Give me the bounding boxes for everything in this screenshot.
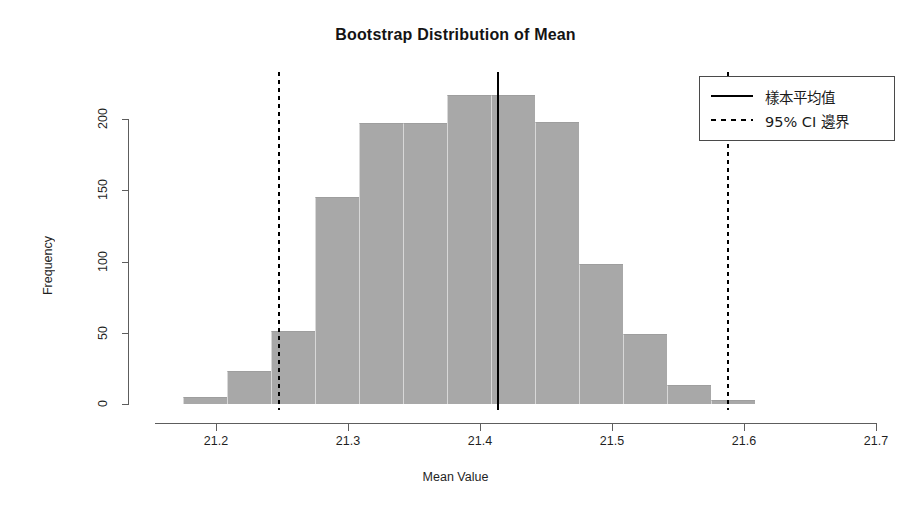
histogram-bar xyxy=(667,385,711,404)
x-axis-title: Mean Value xyxy=(0,470,911,484)
x-axis-line xyxy=(155,423,876,424)
x-axis-tick-label: 21.3 xyxy=(318,434,378,448)
histogram-bar xyxy=(535,122,579,404)
histogram-bar xyxy=(359,123,404,404)
legend-label-mean: 樣本平均值 xyxy=(765,86,835,107)
x-axis-tick-label: 21.2 xyxy=(186,434,246,448)
x-axis-tick xyxy=(216,423,217,431)
histogram-bar xyxy=(579,264,623,404)
chart-figure: Bootstrap Distribution of Mean 050100150… xyxy=(0,0,911,532)
reference-line-sample-mean xyxy=(497,72,499,410)
x-axis-tick-label: 21.7 xyxy=(846,434,906,448)
histogram-bar xyxy=(227,371,272,404)
histogram-bar xyxy=(623,334,668,404)
reference-line-ci-lower xyxy=(278,72,280,410)
legend-item-ci: 95% CI 邊界 xyxy=(709,108,885,132)
legend-solid-line-icon xyxy=(709,90,755,102)
legend-label-ci: 95% CI 邊界 xyxy=(765,110,849,131)
x-axis-tick-label: 21.5 xyxy=(582,434,642,448)
x-axis-tick xyxy=(612,423,613,431)
legend-dashed-line-icon xyxy=(709,114,755,126)
x-axis-tick xyxy=(348,423,349,431)
histogram-bar xyxy=(403,123,447,404)
histogram-bar xyxy=(183,397,227,404)
histogram-bar xyxy=(447,95,491,404)
x-axis-tick xyxy=(876,423,877,431)
histogram-bar xyxy=(711,400,755,404)
x-axis-tick xyxy=(480,423,481,431)
legend-item-mean: 樣本平均值 xyxy=(709,84,885,108)
x-axis-tick-label: 21.4 xyxy=(450,434,510,448)
x-axis-tick xyxy=(744,423,745,431)
histogram-bar xyxy=(315,197,359,404)
x-axis-tick-label: 21.6 xyxy=(714,434,774,448)
chart-legend: 樣本平均值 95% CI 邊界 xyxy=(699,76,895,141)
